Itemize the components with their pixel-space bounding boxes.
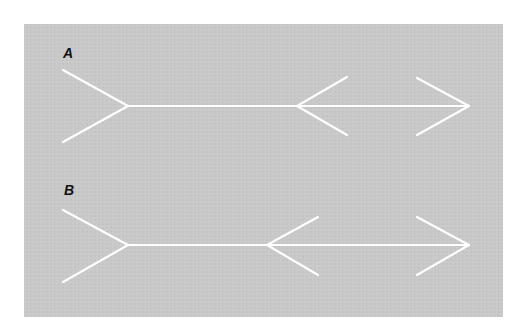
fin-line	[417, 106, 469, 135]
fin-line	[267, 217, 318, 245]
fin-line	[417, 217, 469, 245]
fin-line	[63, 106, 128, 142]
fin-line	[417, 245, 469, 275]
fin-line	[63, 245, 128, 282]
fin-line	[417, 78, 469, 106]
figure-b-lines	[63, 210, 469, 282]
fin-line	[267, 245, 318, 275]
fin-line	[297, 106, 347, 135]
muller-lyer-figure	[0, 0, 525, 330]
fin-line	[63, 210, 128, 245]
figure-a-lines	[63, 70, 469, 142]
fin-line	[63, 70, 128, 106]
fin-line	[297, 77, 347, 106]
